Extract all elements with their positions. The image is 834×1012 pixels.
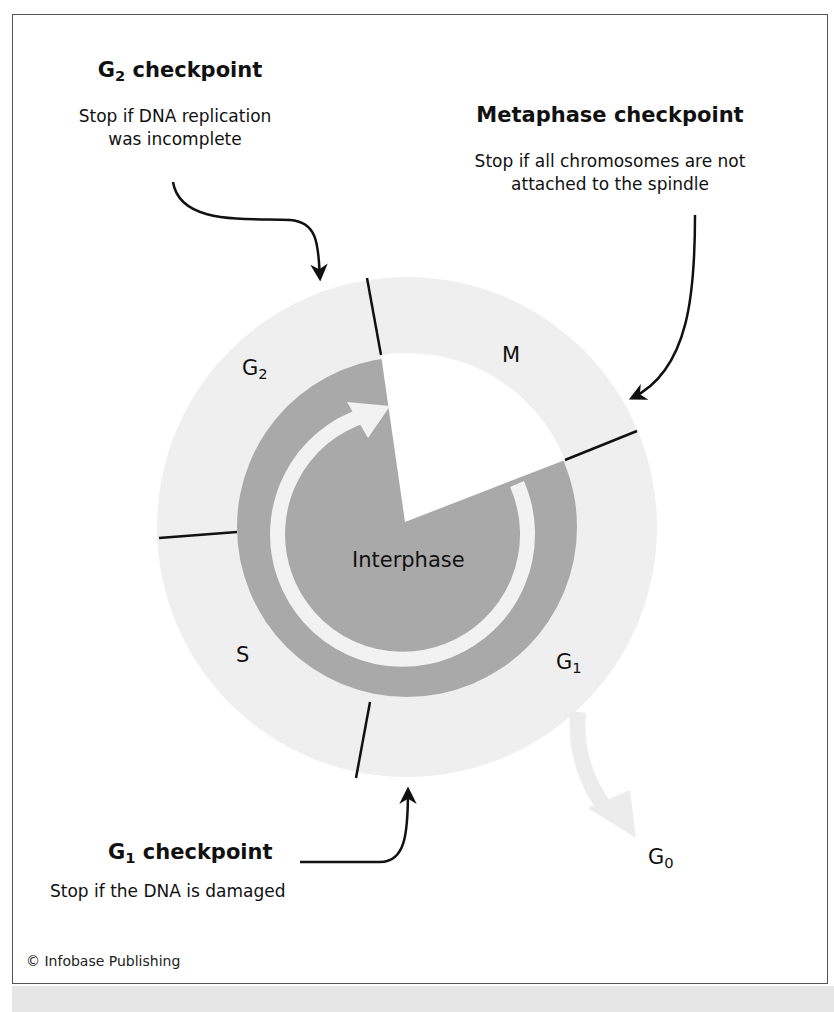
interphase-label: Interphase <box>352 548 465 572</box>
g1-checkpoint-arrow <box>300 790 408 862</box>
g2-checkpoint-arrow <box>173 182 320 278</box>
g1-checkpoint-title: G1 checkpoint <box>108 840 273 866</box>
phase-label-m: M <box>502 343 520 367</box>
g2-checkpoint-title: G2 checkpoint <box>80 58 280 84</box>
copyright-credit: © Infobase Publishing <box>26 953 180 969</box>
metaphase-checkpoint-desc: Stop if all chromosomes are not attached… <box>450 150 770 196</box>
metaphase-checkpoint-title: Metaphase checkpoint <box>460 103 760 127</box>
g2-checkpoint-desc: Stop if DNA replication was incomplete <box>40 105 310 151</box>
phase-label-s: S <box>236 643 249 667</box>
phase-label-g0: G0 <box>648 845 674 871</box>
metaphase-checkpoint-arrow <box>632 215 695 398</box>
g0-exit-arrow <box>577 712 605 808</box>
g1-checkpoint-desc: Stop if the DNA is damaged <box>50 880 286 903</box>
phase-label-g1: G1 <box>556 650 582 676</box>
phase-label-g2: G2 <box>242 356 268 382</box>
